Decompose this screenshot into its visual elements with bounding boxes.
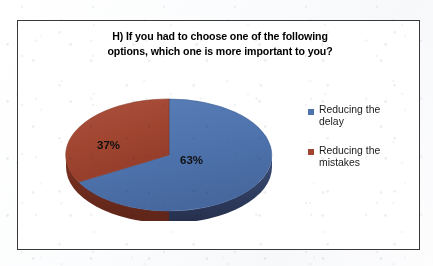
pie-chart-graphic (32, 81, 288, 221)
pie-value-label-red: 37% (97, 139, 120, 151)
legend-swatch-blue-icon (308, 109, 314, 115)
chart-title-line-2: options, which one is more important to … (46, 44, 394, 59)
pie-chart-plot-area: 63% 37% (32, 81, 288, 221)
chart-title: H) If you had to choose one of the follo… (46, 29, 394, 58)
legend-label-reducing-the-mistakes: Reducing the mistakes (319, 145, 407, 170)
legend-label-reducing-the-delay: Reducing the delay (319, 104, 407, 129)
legend-item-reducing-the-delay: Reducing the delay (308, 104, 412, 129)
legend-swatch-red-icon (308, 149, 314, 155)
chart-legend: Reducing the delay Reducing the mistakes (308, 104, 412, 186)
pie-value-label-blue: 63% (180, 154, 203, 166)
chart-container: H) If you had to choose one of the follo… (17, 20, 420, 250)
legend-item-reducing-the-mistakes: Reducing the mistakes (308, 145, 412, 170)
chart-title-line-1: H) If you had to choose one of the follo… (46, 29, 394, 44)
